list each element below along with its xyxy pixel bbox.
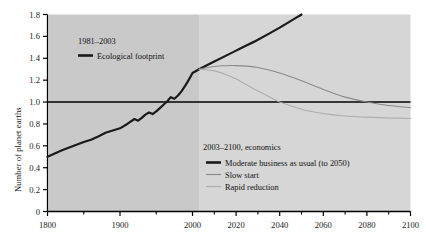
x-tick-label: 2020 <box>228 220 245 230</box>
x-tick-label: 2100 <box>402 220 419 230</box>
legend-historical-title: 1981–2003 <box>78 37 116 46</box>
y-tick-label: 0.4 <box>29 163 40 173</box>
legend-label-ecological-footprint: Ecological footprint <box>97 52 165 61</box>
x-tick-label: 2080 <box>358 220 375 230</box>
y-tick-label: 0.8 <box>29 119 40 129</box>
y-tick-label: 1.2 <box>29 75 40 85</box>
x-tick-label: 1900 <box>111 220 128 230</box>
y-tick-label: 0 <box>36 207 40 217</box>
x-tick-label: 2000 <box>184 220 201 230</box>
figure-root: Number of planet earths 00.20.40.60.81.0… <box>0 0 426 241</box>
y-tick-label: 0.2 <box>29 185 40 195</box>
y-tick-label: 1.6 <box>29 31 40 41</box>
legend-label-rapid-reduction: Rapid reduction <box>225 183 280 192</box>
x-tick-label: 2060 <box>315 220 332 230</box>
legend-label-moderate-business-as-usual: Moderate business as usual (to 2050) <box>225 159 350 168</box>
x-tick-label: 2040 <box>271 220 288 230</box>
y-tick-label: 0.6 <box>29 141 40 151</box>
chart-canvas: 00.20.40.60.81.01.21.41.61.8180019002000… <box>0 0 426 241</box>
y-tick-label: 1.0 <box>29 97 40 107</box>
plot-band-historical <box>49 15 200 212</box>
legend-label-slow-start: Slow start <box>225 171 259 180</box>
x-tick-label: 1800 <box>39 220 56 230</box>
legend-scenarios-title: 2003–2100, economics <box>203 143 281 152</box>
y-tick-label: 1.4 <box>29 53 40 63</box>
y-tick-label: 1.8 <box>29 10 40 20</box>
